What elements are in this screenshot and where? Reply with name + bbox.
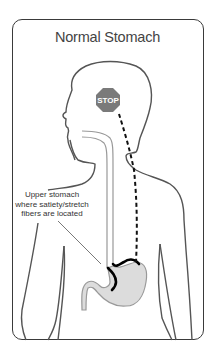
annotation-line-1: Upper stomach <box>12 190 92 200</box>
nerve-signal-path <box>119 114 137 262</box>
stop-sign: STOP <box>96 88 120 112</box>
stop-sign-label: STOP <box>97 96 119 105</box>
anatomy-illustration: STOP <box>0 0 215 357</box>
right-torso-outline <box>159 244 172 340</box>
left-arm-outline <box>21 223 38 340</box>
right-torso-outline-2 <box>160 244 176 340</box>
neck-front-outline <box>48 140 95 190</box>
annotation-line-3: fibers are located <box>12 209 92 219</box>
annotation-line-2: where satiety/stretch <box>12 200 92 210</box>
annotation-caption: Upper stomach where satiety/stretch fibe… <box>12 190 92 219</box>
left-torso-outline <box>48 246 64 340</box>
